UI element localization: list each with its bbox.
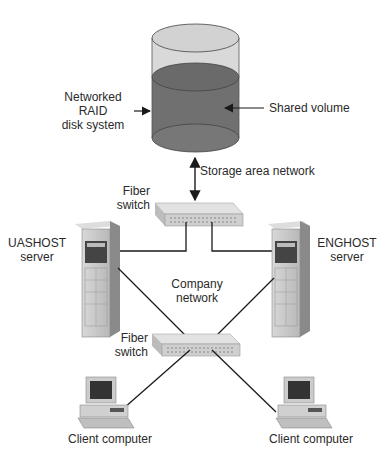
raid-disk-cylinder bbox=[152, 24, 239, 152]
enghost-server-icon bbox=[268, 221, 310, 337]
raid-label-line3: disk system bbox=[58, 118, 128, 132]
san-label: Storage area network bbox=[200, 164, 315, 178]
fiber-switch-bottom-icon bbox=[152, 334, 240, 356]
enghost-label-line1: ENGHOST bbox=[316, 236, 378, 250]
enghost-label: ENGHOST server bbox=[316, 236, 378, 264]
fiber-switch-bottom-label-line1: Fiber bbox=[106, 331, 148, 345]
raid-label-line1: Networked bbox=[58, 90, 128, 104]
client-computer-left-icon bbox=[78, 377, 134, 428]
company-network-label-line2: network bbox=[164, 291, 230, 305]
uashost-label-line1: UASHOST bbox=[6, 236, 68, 250]
raid-label-line2: RAID bbox=[58, 104, 128, 118]
client-computer-right-icon bbox=[276, 377, 332, 428]
client-computer-right-label: Client computer bbox=[256, 432, 366, 446]
raid-label: Networked RAID disk system bbox=[58, 90, 128, 132]
link-switch-uashost bbox=[118, 222, 186, 251]
uashost-label-line2: server bbox=[6, 250, 68, 264]
fiber-switch-bottom-label-line2: switch bbox=[106, 345, 148, 359]
uashost-label: UASHOST server bbox=[6, 236, 68, 264]
network-diagram bbox=[0, 0, 390, 462]
link-switch-enghost bbox=[212, 222, 274, 251]
uashost-server-icon bbox=[75, 221, 120, 337]
fiber-switch-top-label-line2: switch bbox=[110, 198, 150, 212]
fiber-switch-top-label-line1: Fiber bbox=[110, 184, 150, 198]
fiber-switch-bottom-label: Fiber switch bbox=[106, 331, 148, 359]
shared-volume-label: Shared volume bbox=[269, 101, 350, 115]
fiber-switch-top-icon bbox=[155, 203, 243, 226]
link-switch-client-right bbox=[212, 350, 276, 412]
company-network-label: Company network bbox=[164, 277, 230, 305]
company-network-label-line1: Company bbox=[164, 277, 230, 291]
enghost-label-line2: server bbox=[316, 250, 378, 264]
client-computer-left-label: Client computer bbox=[55, 432, 165, 446]
fiber-switch-top-label: Fiber switch bbox=[110, 184, 150, 212]
